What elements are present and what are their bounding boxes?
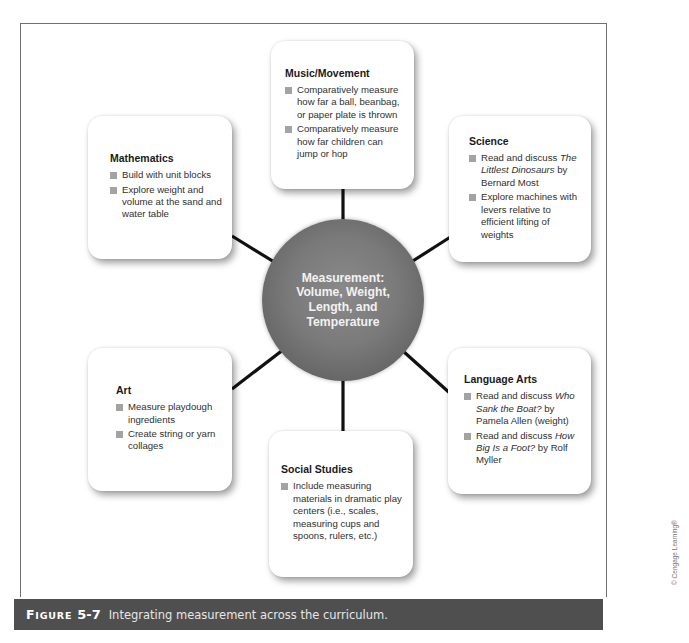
card-title: Mathematics xyxy=(110,152,222,164)
figure-caption: FIGURE 5-7 Integrating measurement acros… xyxy=(14,599,603,630)
list-item: Comparatively measure how far children c… xyxy=(285,123,404,160)
card-list: Measure playdough ingredients Create str… xyxy=(116,401,222,455)
square-bullet-icon xyxy=(110,172,117,179)
figure-number: 5-7 xyxy=(77,607,101,622)
card-title: Science xyxy=(469,135,581,147)
list-item: Create string or yarn collages xyxy=(116,428,222,453)
card-list: Read and discuss The Littlest Dinosaurs … xyxy=(469,152,581,243)
central-topic-label: Measurement: Volume, Weight, Length, and… xyxy=(283,271,403,329)
list-item: Measure playdough ingredients xyxy=(116,401,222,426)
list-item: Explore weight and volume at the sand an… xyxy=(110,184,222,221)
square-bullet-icon xyxy=(285,87,292,94)
square-bullet-icon xyxy=(469,194,476,201)
square-bullet-icon xyxy=(116,431,123,438)
list-item: Build with unit blocks xyxy=(110,169,222,181)
copyright-credit: © Cengage Learning® xyxy=(671,520,678,585)
card-list: Build with unit blocks Explore weight an… xyxy=(110,169,222,223)
card-art: Art Measure playdough ingredients Create… xyxy=(88,348,232,491)
square-bullet-icon xyxy=(281,483,288,490)
list-item: Comparatively measure how far a ball, be… xyxy=(285,84,404,121)
square-bullet-icon xyxy=(469,155,476,162)
list-item: Read and discuss How Big Is a Foot? by R… xyxy=(464,430,581,467)
card-title: Music/Movement xyxy=(285,67,404,79)
card-music-movement: Music/Movement Comparatively measure how… xyxy=(271,41,414,189)
square-bullet-icon xyxy=(464,393,471,400)
card-list: Include measuring materials in dramatic … xyxy=(281,480,403,544)
figure-caption-text: Integrating measurement across the curri… xyxy=(109,608,388,622)
card-social-studies: Social Studies Include measuring materia… xyxy=(269,431,413,577)
card-list: Read and discuss Who Sank the Boat? by P… xyxy=(464,390,581,468)
card-title: Language Arts xyxy=(464,373,581,385)
card-title: Social Studies xyxy=(281,463,403,475)
card-list: Comparatively measure how far a ball, be… xyxy=(285,84,404,162)
list-item: Include measuring materials in dramatic … xyxy=(281,480,403,542)
list-item: Explore machines with levers relative to… xyxy=(469,191,581,241)
card-science: Science Read and discuss The Littlest Di… xyxy=(449,116,591,262)
card-title: Art xyxy=(116,384,222,396)
card-language-arts: Language Arts Read and discuss Who Sank … xyxy=(448,348,591,494)
square-bullet-icon xyxy=(285,126,292,133)
central-topic-circle: Measurement: Volume, Weight, Length, and… xyxy=(262,219,424,381)
list-item: Read and discuss The Littlest Dinosaurs … xyxy=(469,152,581,189)
card-mathematics: Mathematics Build with unit blocks Explo… xyxy=(88,116,232,259)
square-bullet-icon xyxy=(464,433,471,440)
list-item: Read and discuss Who Sank the Boat? by P… xyxy=(464,390,581,427)
figure-label: FIGURE xyxy=(26,607,72,622)
square-bullet-icon xyxy=(110,187,117,194)
square-bullet-icon xyxy=(116,404,123,411)
